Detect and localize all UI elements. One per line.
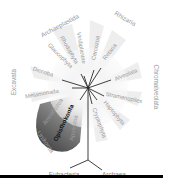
tree-svg: ArchaeplastidaRhizariaChromalveolataExca… xyxy=(0,0,173,188)
supergroup-label: Excavata xyxy=(10,68,17,95)
supergroup-label: Chromalveolata xyxy=(153,65,160,110)
phylogeny-diagram: ArchaeplastidaRhizariaChromalveolataExca… xyxy=(0,0,173,188)
bottom-rule xyxy=(0,175,163,178)
supergroup-label: Rhizaria xyxy=(114,9,138,27)
